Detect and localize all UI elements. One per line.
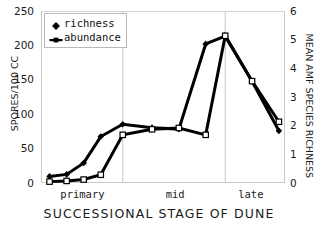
- y-tick-left-50: 50: [8, 143, 34, 153]
- legend-item-abundance: abundance: [49, 30, 121, 44]
- y-tick-right-0: 0: [290, 178, 304, 188]
- data-point-abundance-9: [249, 78, 254, 83]
- y-tick-left-0: 0: [8, 178, 34, 188]
- data-point-abundance-10: [276, 119, 281, 124]
- y-tick-right-2: 2: [290, 120, 304, 130]
- y-tick-left-100: 100: [8, 109, 34, 119]
- y-tick-right-1: 1: [290, 149, 304, 159]
- data-point-abundance-0: [47, 179, 52, 184]
- y-tick-left-250: 250: [8, 6, 34, 16]
- y-tick-left-200: 200: [8, 40, 34, 50]
- y-axis-ticks-right: 0123456: [290, 0, 306, 228]
- series-line-abundance: [50, 36, 279, 182]
- filled-diamond-icon: [49, 17, 63, 29]
- data-point-abundance-6: [176, 125, 181, 130]
- series-richness: [46, 33, 282, 180]
- x-category-late: late: [238, 188, 263, 200]
- data-point-abundance-2: [81, 177, 86, 182]
- legend-item-richness: richness: [49, 16, 121, 30]
- legend-label: richness: [64, 17, 115, 29]
- data-point-abundance-8: [223, 33, 228, 38]
- legend-label: abundance: [64, 31, 121, 43]
- x-axis-label: SUCCESSIONAL STAGE OF DUNE: [0, 206, 318, 221]
- data-point-abundance-7: [203, 132, 208, 137]
- legend: richnessabundance: [44, 13, 127, 48]
- y-tick-right-3: 3: [290, 92, 304, 102]
- chart-figure: SPORES/100 CC MEAN AMF SPECIES RICHNESS …: [0, 0, 318, 228]
- line-marker-icon: [49, 31, 63, 43]
- data-point-abundance-3: [98, 172, 103, 177]
- y-tick-left-150: 150: [8, 74, 34, 84]
- series-line-richness: [50, 36, 279, 176]
- x-category-mid: mid: [166, 188, 185, 200]
- data-point-abundance-4: [120, 132, 125, 137]
- y-tick-right-6: 6: [290, 6, 304, 16]
- data-point-abundance-1: [64, 178, 69, 183]
- x-category-primary: primary: [60, 188, 104, 200]
- y-axis-ticks-left: 050100150200250: [8, 0, 34, 228]
- data-point-abundance-5: [149, 127, 154, 132]
- y-tick-right-5: 5: [290, 34, 304, 44]
- y-tick-right-4: 4: [290, 63, 304, 73]
